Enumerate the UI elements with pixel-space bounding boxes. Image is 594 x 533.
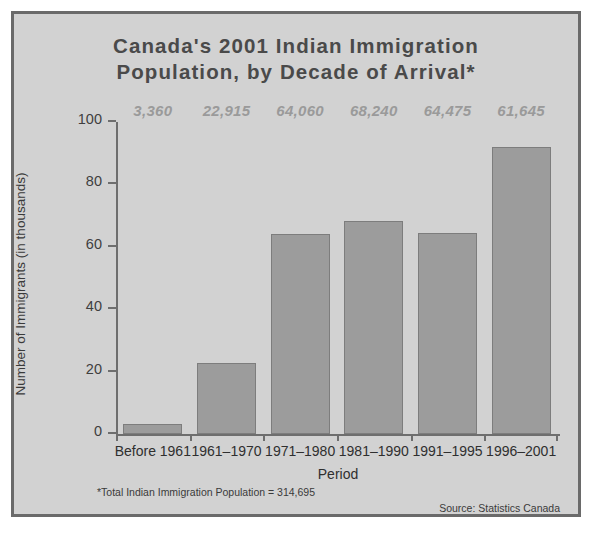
bar-group[interactable]: 64,0601971–1980 <box>271 122 330 434</box>
bar-value-label: 68,240 <box>350 102 398 119</box>
x-axis-title: Period <box>116 466 560 482</box>
chart-title-line-1: Canada's 2001 Indian Immigration <box>14 33 578 59</box>
x-axis-category-label: 1991–1995 <box>412 443 482 459</box>
y-axis-tick: 80 <box>108 182 116 184</box>
x-axis-tick <box>337 434 339 441</box>
x-axis-tick <box>263 434 265 441</box>
x-axis-category-label: 1981–1990 <box>339 443 409 459</box>
bar-group[interactable]: 64,4751991–1995 <box>418 122 477 434</box>
bar-value-label: 64,475 <box>424 102 472 119</box>
bar-value-label: 22,915 <box>203 102 251 119</box>
x-axis-tick <box>484 434 486 441</box>
y-axis-tick-label: 100 <box>78 111 102 127</box>
x-axis-tick <box>190 434 192 441</box>
chart-title: Canada's 2001 Indian Immigration Populat… <box>14 33 578 85</box>
chart-title-line-2: Population, by Decade of Arrival* <box>14 59 578 85</box>
footnote: *Total Indian Immigration Population = 3… <box>97 486 315 498</box>
bar-group[interactable]: 3,360Before 1961 <box>123 122 182 434</box>
x-axis-category-label: 1996–2001 <box>486 443 556 459</box>
y-axis-tick: 40 <box>108 307 116 309</box>
bar-group[interactable]: 61,6451996–2001 <box>492 122 551 434</box>
y-axis-title: Number of Immigrants (in thousands) <box>13 0 28 134</box>
y-axis-tick: 20 <box>108 370 116 372</box>
x-axis-category-label: 1971–1980 <box>265 443 335 459</box>
y-axis-title-label: Number of Immigrants (in thousands) <box>13 134 28 434</box>
y-axis-tick-label: 0 <box>94 423 102 439</box>
x-axis-tick <box>411 434 413 441</box>
bar-rect[interactable]: 3,360 <box>123 424 182 434</box>
y-axis-tick-label: 80 <box>86 173 102 189</box>
x-axis-category-label: 1961–1970 <box>191 443 261 459</box>
bar-group[interactable]: 22,9151961–1970 <box>197 122 256 434</box>
y-axis-tick-label: 60 <box>86 236 102 252</box>
x-axis-tick <box>116 434 118 441</box>
chart-figure: Canada's 2001 Indian Immigration Populat… <box>11 11 581 517</box>
plot-area: 0204060801003,360Before 196122,9151961–1… <box>116 122 558 434</box>
bar-rect[interactable]: 61,645 <box>492 147 551 434</box>
y-axis-tick: 0 <box>108 432 116 434</box>
x-axis-tick <box>556 434 558 441</box>
bar-rect[interactable]: 22,915 <box>197 363 256 434</box>
y-axis-tick-label: 40 <box>86 298 102 314</box>
source-note: Source: Statistics Canada <box>439 502 560 514</box>
bar-rect[interactable]: 68,240 <box>344 221 403 434</box>
bar-value-label: 3,360 <box>133 102 172 119</box>
bar-rect[interactable]: 64,060 <box>271 234 330 434</box>
bar-value-label: 64,060 <box>276 102 324 119</box>
bar-group[interactable]: 68,2401981–1990 <box>344 122 403 434</box>
x-axis-category-label: Before 1961 <box>115 443 191 459</box>
bar-value-label: 61,645 <box>497 102 545 119</box>
y-axis-tick: 100 <box>108 120 116 122</box>
y-axis-tick: 60 <box>108 245 116 247</box>
y-axis-tick-label: 20 <box>86 361 102 377</box>
bar-rect[interactable]: 64,475 <box>418 233 477 434</box>
